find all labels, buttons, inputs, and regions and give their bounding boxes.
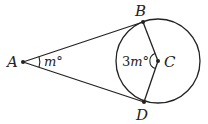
point-b xyxy=(141,20,145,24)
point-d xyxy=(142,100,146,104)
point-c xyxy=(156,59,160,63)
angle-arc-a xyxy=(39,57,40,68)
angle-label-c: 3m° xyxy=(122,54,149,69)
geometry-diagram: A B C D m° 3m° xyxy=(0,0,208,124)
label-c: C xyxy=(164,53,176,71)
label-b: B xyxy=(134,2,146,20)
label-a: A xyxy=(5,53,18,71)
diagram-canvas: A B C D m° 3m° xyxy=(0,0,208,124)
label-d: D xyxy=(135,106,148,124)
angle-arc-c xyxy=(150,54,156,69)
angle-label-a: m° xyxy=(44,54,63,69)
point-a xyxy=(21,60,25,64)
